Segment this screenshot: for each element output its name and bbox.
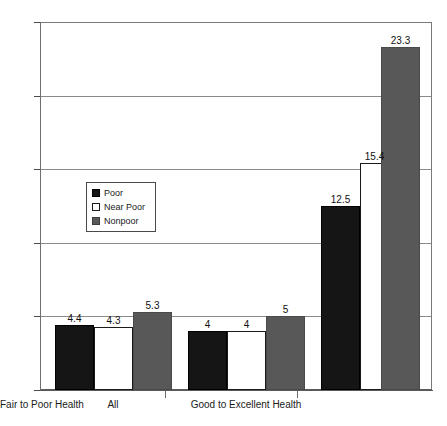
bar-fair-poor-poor: [321, 206, 360, 390]
bar-good-excellent-nonpoor: [266, 316, 305, 390]
y-tick-25: [34, 22, 40, 23]
bar-label-all-nearpoor: 4.3: [94, 315, 133, 326]
bar-label-fair-poor-nonpoor: 23.3: [381, 35, 420, 46]
bar-label-fair-poor-nearpoor: 15.4: [355, 151, 394, 162]
x-group-label-fair-poor: Fair to Poor Health: [0, 399, 84, 411]
y-tick-10: [34, 243, 40, 244]
bar-label-good-excellent-poor: 4: [188, 319, 227, 330]
gridline-20: [41, 96, 431, 97]
y-axis-line: [40, 22, 41, 391]
x-axis-separator-tick-1: [165, 390, 166, 398]
white-square-swatch-icon: [92, 203, 100, 211]
bar-all-nearpoor: [94, 327, 133, 390]
legend-item-nonpoor: Nonpoor: [92, 214, 151, 228]
black-square-swatch-icon: [92, 189, 100, 197]
y-tick-5: [34, 316, 40, 317]
bar-label-fair-poor-poor: 12.5: [321, 194, 360, 205]
gray-square-swatch-icon: [92, 217, 100, 225]
bar-label-good-excellent-nearpoor: 4: [227, 319, 266, 330]
bar-all-nonpoor: [133, 312, 172, 390]
legend-item-poor: Poor: [92, 186, 151, 200]
bar-label-all-poor: 4.4: [55, 313, 94, 324]
bar-all-poor: [55, 325, 94, 390]
bar-chart: 25 20 15 10 5 0 4.4 4.3 5.3 4 4 5 12.5 1…: [0, 0, 447, 426]
bar-label-all-nonpoor: 5.3: [133, 300, 172, 311]
legend-label-nonpoor: Nonpoor: [104, 216, 139, 226]
y-tick-20: [34, 96, 40, 97]
legend-label-near-poor: Near Poor: [104, 202, 145, 212]
bar-label-good-excellent-nonpoor: 5: [266, 304, 305, 315]
legend: Poor Near Poor Nonpoor: [86, 182, 156, 232]
legend-label-poor: Poor: [104, 188, 123, 198]
bar-good-excellent-nearpoor: [227, 331, 266, 390]
bar-good-excellent-poor: [188, 331, 227, 390]
y-tick-15: [34, 169, 40, 170]
x-axis-line: [40, 390, 433, 391]
x-axis-separator-tick-2: [297, 390, 298, 398]
bar-fair-poor-nonpoor: [381, 47, 420, 390]
x-group-label-good-excellent: Good to Excellent Health: [181, 399, 311, 411]
legend-item-near-poor: Near Poor: [92, 200, 151, 214]
